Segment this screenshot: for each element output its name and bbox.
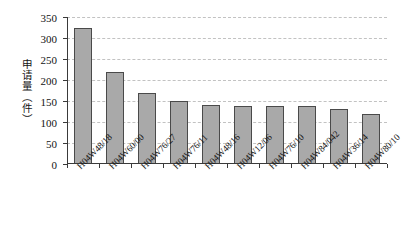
y-axis-tick-label: 350: [41, 12, 58, 24]
y-axis-tick-label: 300: [41, 33, 58, 45]
figure-caption: [0, 228, 398, 237]
y-axis-tick-label: 0: [52, 159, 58, 171]
y-axis-tick-label: 200: [41, 75, 58, 87]
bar: [74, 28, 92, 164]
x-axis-label-group: H04W48/18H04W60/00H04W76/27H04W76/11H04W…: [67, 164, 397, 224]
y-axis-line: [67, 17, 68, 164]
y-axis-title: 申请量（件）: [9, 33, 31, 151]
y-axis-tick-label: 250: [41, 54, 58, 66]
gridline: [67, 38, 387, 39]
y-axis-tick-label: 150: [41, 96, 58, 108]
gridline: [67, 17, 387, 18]
y-axis-tick-label: 50: [46, 138, 57, 150]
gridline: [67, 59, 387, 60]
y-axis-tick-label: 100: [41, 117, 58, 129]
